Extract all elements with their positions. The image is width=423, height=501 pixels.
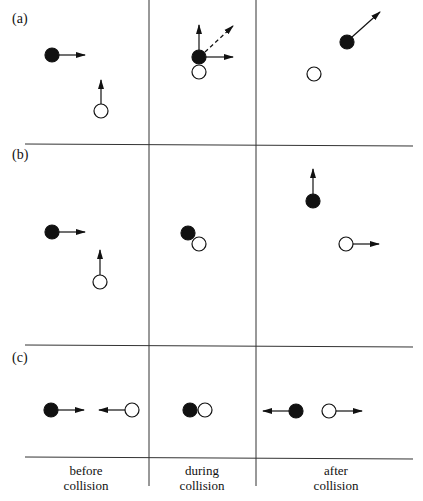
open-particle-icon xyxy=(192,237,206,251)
row-divider-1 xyxy=(25,144,413,146)
row-a xyxy=(45,12,380,118)
filled-particle-icon xyxy=(45,48,59,62)
caption-before: before collision xyxy=(36,463,136,493)
caption-after: after collision xyxy=(286,463,386,493)
caption-line: after xyxy=(286,463,386,478)
resultant-arrow-dashed-icon xyxy=(205,26,233,52)
open-particle-icon xyxy=(322,404,336,418)
caption-line: before xyxy=(36,463,136,478)
open-particle-icon xyxy=(94,104,108,118)
open-particle-icon xyxy=(125,403,139,417)
row-label-c: (c) xyxy=(12,351,28,365)
filled-particle-icon xyxy=(306,194,320,208)
velocity-arrow-diagonal-icon xyxy=(352,12,380,37)
row-c xyxy=(44,403,362,418)
caption-line: during xyxy=(152,463,252,478)
filled-particle-icon xyxy=(340,35,354,49)
diagram-canvas xyxy=(0,0,423,501)
filled-particle-icon xyxy=(44,403,58,417)
row-divider-2 xyxy=(25,345,413,347)
open-particle-icon xyxy=(198,403,212,417)
caption-line: collision xyxy=(286,478,386,493)
filled-particle-icon xyxy=(192,50,206,64)
caption-line: collision xyxy=(152,478,252,493)
caption-line: collision xyxy=(36,478,136,493)
row-divider-3 xyxy=(25,457,413,459)
filled-particle-icon xyxy=(183,403,197,417)
open-particle-icon xyxy=(339,237,353,251)
grid-lines xyxy=(25,0,413,486)
row-label-a: (a) xyxy=(12,12,28,26)
row-b xyxy=(45,169,379,289)
row-label-b: (b) xyxy=(12,148,28,162)
filled-particle-icon xyxy=(289,404,303,418)
filled-particle-icon xyxy=(181,226,195,240)
open-particle-icon xyxy=(192,65,206,79)
open-particle-icon xyxy=(307,67,321,81)
open-particle-icon xyxy=(93,275,107,289)
filled-particle-icon xyxy=(45,225,59,239)
caption-during: during collision xyxy=(152,463,252,493)
